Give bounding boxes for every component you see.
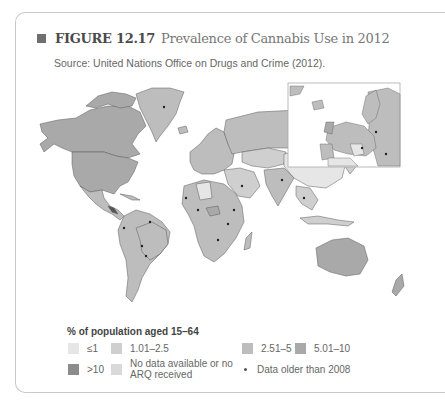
legend-swatch — [68, 364, 79, 375]
north-america-canada — [40, 106, 146, 158]
legend-label: Data older than 2008 — [257, 364, 350, 375]
legend-item-5-10: 5.01–10 — [295, 343, 350, 354]
figure-source: Source: United Nations Office on Drugs a… — [54, 57, 325, 69]
caribbean — [120, 194, 140, 200]
legend-item-older-data: Data older than 2008 — [240, 364, 350, 375]
legend-swatch — [242, 343, 253, 354]
new-zealand — [392, 274, 404, 296]
legend-heading: % of population aged 15–64 — [67, 326, 199, 337]
legend-swatch — [68, 343, 79, 354]
figure-title: FIGURE 12.17 Prevalence of Cannabis Use … — [37, 31, 389, 46]
figure-label: FIGURE 12.17 — [55, 31, 155, 46]
legend-item-le1: ≤1 — [68, 343, 98, 354]
legend-label: ≤1 — [87, 343, 98, 354]
europe-inset — [288, 83, 400, 167]
world-map — [28, 82, 420, 322]
southeast-asia — [296, 186, 318, 210]
legend-item-2.5-5: 2.51–5 — [242, 343, 292, 354]
legend-label: >10 — [87, 364, 104, 375]
madagascar — [244, 232, 252, 250]
legend-item-nodata: No data available or no ARQ received — [111, 358, 233, 380]
legend-label: 2.51–5 — [261, 343, 292, 354]
central-asia — [242, 148, 286, 168]
legend-swatch — [295, 343, 306, 354]
figure-caption: Prevalence of Cannabis Use in 2012 — [161, 31, 389, 46]
arctic-islands — [86, 92, 136, 108]
legend-item-gt10: >10 — [68, 364, 104, 375]
indonesia — [300, 216, 354, 226]
legend-label: No data available or no ARQ received — [130, 358, 233, 380]
mexico-central-america — [80, 186, 124, 220]
south-america — [118, 210, 170, 302]
legend-label: 5.01–10 — [314, 343, 350, 354]
iceland — [178, 126, 188, 134]
india — [264, 168, 294, 206]
legend-item-1-2.5: 1.01–2.5 — [111, 343, 169, 354]
legend-label: 1.01–2.5 — [130, 343, 169, 354]
greenland — [136, 88, 184, 142]
older-data-dot-icon — [244, 368, 247, 371]
figure-marker-icon — [37, 34, 46, 43]
australia — [316, 238, 368, 276]
legend-swatch — [111, 364, 122, 375]
legend-swatch — [111, 343, 122, 354]
